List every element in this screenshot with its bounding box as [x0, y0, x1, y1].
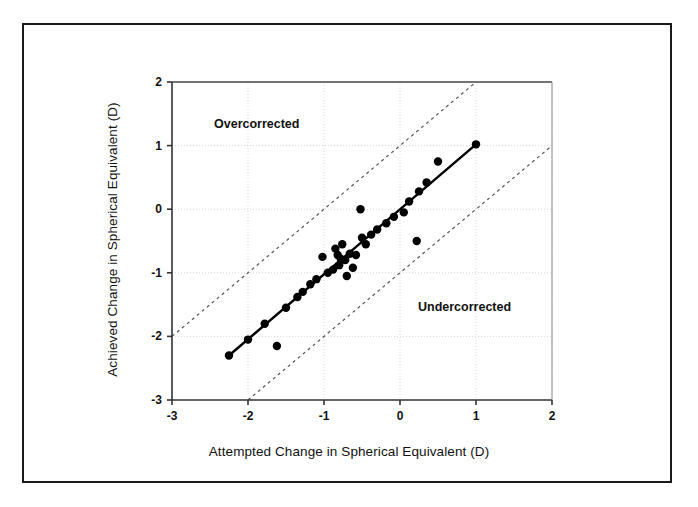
x-tick-label: -3 — [152, 409, 192, 423]
y-tick-label: 0 — [128, 202, 162, 216]
y-tick-label: -3 — [128, 393, 162, 407]
y-tick-label: 2 — [128, 75, 162, 89]
x-tick-label: 1 — [456, 409, 496, 423]
undercorrected-region-label: Undercorrected — [418, 300, 511, 314]
x-tick-label: 2 — [532, 409, 572, 423]
y-tick-label: 1 — [128, 139, 162, 153]
overcorrected-region-label: Overcorrected — [214, 117, 299, 131]
y-tick-label: -2 — [128, 329, 162, 343]
x-tick-label: -2 — [228, 409, 268, 423]
x-axis-title: Attempted Change in Spherical Equivalent… — [0, 444, 698, 459]
figure-page: Attempted Change in Spherical Equivalent… — [0, 0, 698, 507]
x-tick-label: -1 — [304, 409, 344, 423]
y-tick-label: -1 — [128, 266, 162, 280]
y-axis-title: Achieved Change in Spherical Equivalent … — [105, 70, 120, 410]
x-tick-label: 0 — [380, 409, 420, 423]
